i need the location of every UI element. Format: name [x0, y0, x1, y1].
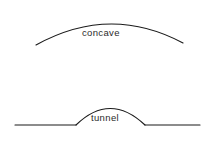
- tunnel-label: tunnel: [91, 112, 119, 123]
- concave-label: concave: [82, 27, 120, 38]
- diagram-canvas: concave tunnel: [0, 0, 212, 142]
